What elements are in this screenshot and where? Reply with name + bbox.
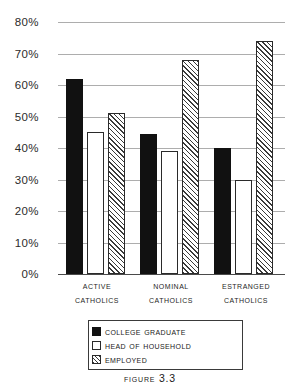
bar-group-active-catholics [66,22,136,274]
category-label-line2: catholics [132,292,210,306]
y-tick-label-60: 60% [0,79,39,91]
category-label-estranged-catholics: Estranged catholics [206,278,286,306]
bar-active-college-graduate[interactable] [66,79,83,274]
figure-caption: Figure 3.3 [0,372,300,384]
x-axis-line [58,274,285,275]
category-label-line1: Nominal [132,278,210,292]
legend-item-college-graduate[interactable]: College graduate [92,324,238,338]
category-label-active-catholics: Active catholics [58,278,136,306]
chart-legend: College graduate Head of household Emplo… [88,320,243,370]
category-label-line2: catholics [58,292,136,306]
bar-estranged-head-of-household[interactable] [235,180,252,275]
x-axis-category-labels: Active catholics Nominal catholics Estra… [58,278,285,310]
chart-plot-area: 80% 70% 60% 50% 40% 30% 20% 10% 0% [58,22,285,274]
category-label-line2: catholics [206,292,286,306]
category-label-nominal-catholics: Nominal catholics [132,278,210,306]
figure-3-3: 80% 70% 60% 50% 40% 30% 20% 10% 0% [0,0,300,391]
legend-swatch-hatched-square-icon [92,355,101,364]
legend-label: Head of household [105,339,191,351]
y-tick-label-10: 10% [0,237,39,249]
bar-nominal-head-of-household[interactable] [161,151,178,274]
legend-swatch-solid-square-icon [92,327,101,336]
y-tick-label-20: 20% [0,205,39,217]
y-tick-label-30: 30% [0,174,39,186]
bar-nominal-employed[interactable] [182,60,199,274]
y-tick-label-80: 80% [0,16,39,28]
bar-group-nominal-catholics [140,22,210,274]
legend-item-employed[interactable]: Employed [92,352,238,366]
y-tick-label-0: 0% [0,268,39,280]
y-tick-label-50: 50% [0,111,39,123]
bar-group-estranged-catholics [214,22,284,274]
category-label-line1: Estranged [206,278,286,292]
bar-active-head-of-household[interactable] [87,132,104,274]
legend-label: College graduate [105,325,186,337]
bar-estranged-college-graduate[interactable] [214,148,231,274]
bar-nominal-college-graduate[interactable] [140,134,157,274]
legend-item-head-of-household[interactable]: Head of household [92,338,238,352]
bar-estranged-employed[interactable] [256,41,273,274]
y-tick-label-40: 40% [0,142,39,154]
bar-series-container [58,22,285,274]
legend-swatch-open-square-icon [92,341,101,350]
bar-active-employed[interactable] [108,113,125,274]
y-tick-label-70: 70% [0,48,39,60]
legend-label: Employed [105,353,147,365]
category-label-line1: Active [58,278,136,292]
